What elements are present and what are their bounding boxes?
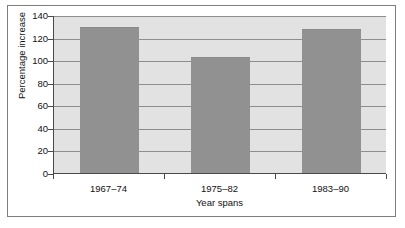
plot-frame: [53, 16, 386, 174]
y-tick-label-140: 140: [2, 11, 48, 21]
bar-1975–82: [191, 57, 250, 173]
y-tick-label-120: 120: [2, 34, 48, 44]
y-tick-label-100: 100: [2, 56, 48, 66]
y-axis-labels: 020406080100120140: [0, 0, 48, 228]
y-tick-label-60: 60: [2, 101, 48, 111]
x-tick-3: [386, 174, 387, 179]
y-tick-label-40: 40: [2, 124, 48, 134]
x-tick-2: [275, 174, 276, 179]
y-tick-label-80: 80: [2, 79, 48, 89]
x-axis-label-1967–74: 1967–74: [53, 183, 164, 194]
x-tick-1: [164, 174, 165, 179]
bar-1983–90: [302, 29, 361, 173]
x-axis-label-1983–90: 1983–90: [275, 183, 386, 194]
chart-figure: Percentage increase 020406080100120140 1…: [0, 0, 405, 228]
x-axis-label-1975–82: 1975–82: [164, 183, 275, 194]
bar-1967–74: [80, 27, 139, 173]
y-tick-label-0: 0: [2, 169, 48, 179]
plot-area: [54, 16, 386, 173]
gridline-140: [54, 16, 386, 17]
x-tick-0: [53, 174, 54, 179]
y-tick-label-20: 20: [2, 146, 48, 156]
x-axis-title: Year spans: [53, 197, 386, 208]
